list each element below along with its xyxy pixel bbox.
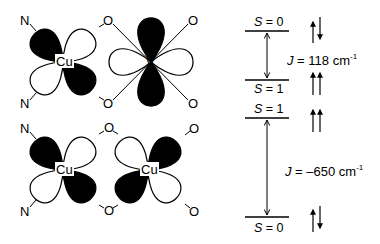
o-label: O bbox=[189, 121, 199, 136]
coupling-constant-label: J = 118 cm-1 bbox=[286, 52, 358, 68]
n-label: N bbox=[20, 121, 29, 136]
o-label: O bbox=[104, 203, 114, 218]
spin-parallel-icon bbox=[313, 110, 320, 132]
coupling-constant-label: J = –650 cm-1 bbox=[284, 163, 364, 179]
exchange-coupling-diagram: Cu V N N O O O O bbox=[0, 0, 380, 244]
cu-label: Cu bbox=[141, 162, 158, 177]
v-label: V bbox=[146, 55, 155, 70]
spin-antiparallel-icon bbox=[313, 17, 320, 43]
state-label-s1: S = 1 bbox=[254, 82, 284, 96]
o-label: O bbox=[188, 96, 198, 111]
n-label: N bbox=[20, 96, 29, 111]
cu-label: Cu bbox=[56, 54, 73, 69]
n-label: N bbox=[20, 13, 29, 28]
cu-cu-complex: Cu Cu N N O O O O bbox=[20, 120, 199, 219]
spin-parallel-icon bbox=[313, 73, 320, 95]
cu-label: Cu bbox=[56, 162, 73, 177]
o-label: O bbox=[103, 13, 113, 28]
o-label: O bbox=[189, 204, 199, 219]
state-label-s0: S = 0 bbox=[254, 221, 284, 235]
state-label-s1: S = 1 bbox=[254, 102, 284, 116]
state-label-s0: S = 0 bbox=[254, 15, 284, 29]
spin-antiparallel-icon bbox=[313, 206, 320, 232]
o-label: O bbox=[103, 96, 113, 111]
energy-levels-cu-v: S = 0 S = 1 J = 118 cm-1 bbox=[245, 15, 358, 96]
cu-v-complex: Cu V N N O O O O bbox=[20, 13, 198, 111]
energy-levels-cu-cu: S = 1 S = 0 J = –650 cm-1 bbox=[245, 102, 364, 235]
n-label: N bbox=[20, 204, 29, 219]
o-label: O bbox=[104, 120, 114, 135]
o-label: O bbox=[188, 13, 198, 28]
